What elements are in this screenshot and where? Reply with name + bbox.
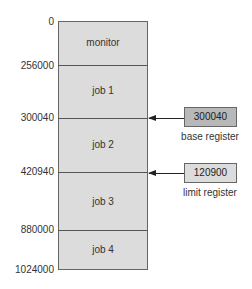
segment-job-1: job 1 bbox=[58, 85, 148, 96]
segment-job-3: job 3 bbox=[58, 196, 148, 207]
address-256000: 256000 bbox=[21, 60, 54, 71]
limit-arrowhead-icon bbox=[148, 170, 156, 176]
address-300040: 300040 bbox=[21, 112, 54, 123]
divider-420940 bbox=[58, 172, 148, 173]
address-880000: 880000 bbox=[21, 224, 54, 235]
divider-880000 bbox=[58, 230, 148, 231]
address-420940: 420940 bbox=[21, 166, 54, 177]
base-register-label: base register bbox=[170, 131, 250, 142]
segment-job-2: job 2 bbox=[58, 139, 148, 150]
base-register-box: 300040 bbox=[184, 107, 237, 127]
segment-monitor: monitor bbox=[58, 37, 148, 48]
address-1024000: 1024000 bbox=[15, 264, 54, 275]
base-arrowhead-icon bbox=[148, 115, 156, 121]
address-0: 0 bbox=[48, 16, 54, 27]
divider-300040 bbox=[58, 118, 148, 119]
limit-register-box: 120900 bbox=[184, 163, 237, 183]
limit-register-label: limit register bbox=[170, 187, 250, 198]
divider-256000 bbox=[58, 65, 148, 66]
segment-job-4: job 4 bbox=[58, 244, 148, 255]
